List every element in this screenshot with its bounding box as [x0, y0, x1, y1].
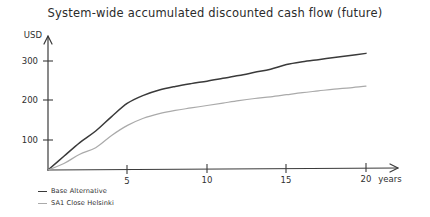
y-axis-label: USD: [24, 30, 43, 40]
chart-plot-area: 300 200 100 USD 5 10 15 20 years: [0, 0, 430, 217]
x-axis-line: [48, 168, 398, 170]
y-tick-label-100: 100: [22, 135, 38, 145]
x-tick-label-10: 10: [202, 175, 213, 185]
series-line-sa1-close-helsinki: [48, 86, 366, 170]
legend-item-sa1-close-helsinki: SA1 Close Helsinki: [38, 198, 114, 208]
chart-legend: Base Alternative SA1 Close Helsinki: [38, 186, 114, 208]
legend-swatch-icon: [38, 203, 47, 204]
y-tick-label-300: 300: [22, 56, 38, 66]
legend-swatch-icon: [38, 191, 47, 192]
y-axis: 300 200 100 USD: [22, 30, 53, 170]
legend-label: Base Alternative: [51, 187, 107, 195]
series-line-base-alternative: [48, 53, 366, 170]
x-tick-label-20: 20: [361, 174, 372, 184]
x-tick-label-5: 5: [124, 176, 129, 186]
series-group: [48, 53, 366, 170]
x-axis-label: years: [378, 174, 402, 184]
x-tick-label-15: 15: [281, 175, 292, 185]
legend-label: SA1 Close Helsinki: [51, 199, 114, 207]
legend-item-base-alternative: Base Alternative: [38, 186, 114, 196]
y-tick-label-200: 200: [22, 95, 38, 105]
chart-container: System-wide accumulated discounted cash …: [0, 0, 430, 217]
x-axis: 5 10 15 20 years: [48, 163, 402, 186]
